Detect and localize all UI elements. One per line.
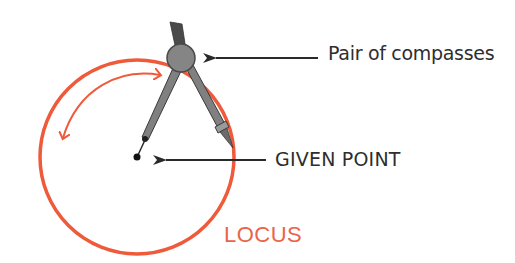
given-point-dot xyxy=(134,154,141,161)
given-point-label: GIVEN POINT xyxy=(275,150,401,169)
compasses-label: Pair of compasses xyxy=(328,44,494,63)
locus-diagram: Pair of compasses GIVEN POINT LOCUS xyxy=(0,0,515,263)
compass-icon xyxy=(138,22,233,155)
locus-label: LOCUS xyxy=(224,224,302,246)
